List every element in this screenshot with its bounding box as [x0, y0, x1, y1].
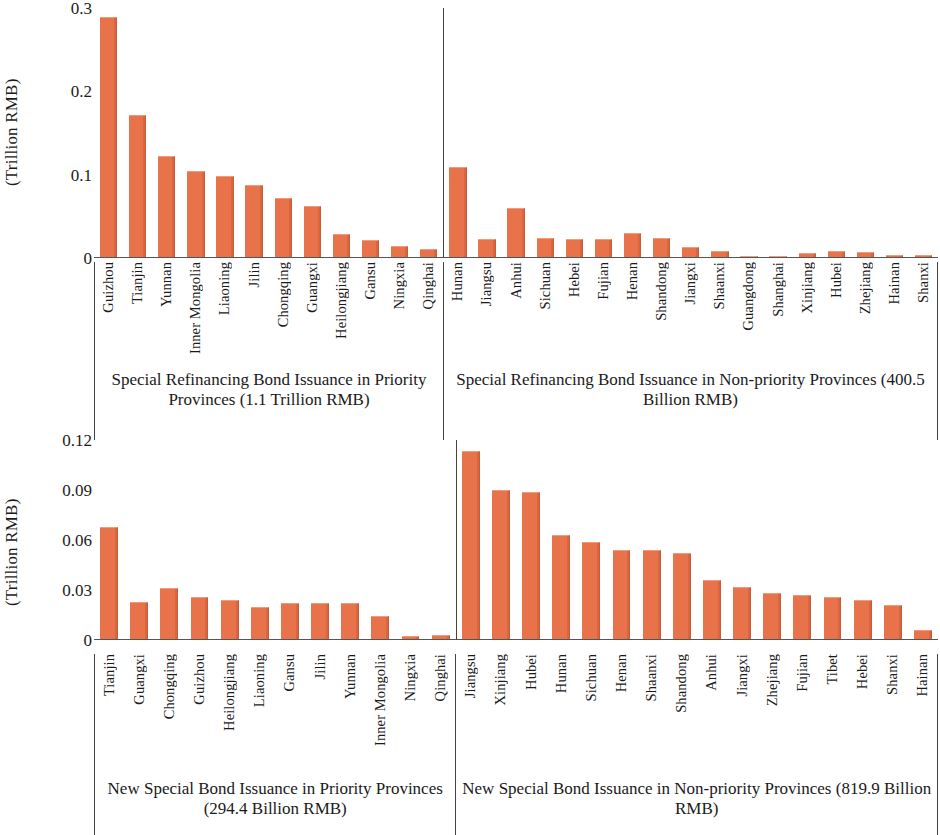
y-tick-label: 0.12	[62, 432, 92, 449]
y-axis-label-bottom: (Trillion RMB)	[2, 452, 22, 652]
bar	[763, 593, 781, 639]
bar	[537, 238, 554, 257]
bar-cell	[365, 440, 395, 639]
bar-cell	[606, 440, 636, 639]
bar	[245, 185, 262, 257]
bar-cell	[637, 440, 667, 639]
bar-cell	[705, 8, 734, 257]
y-axis-label-top: (Trillion RMB)	[2, 12, 22, 252]
bar-cell	[215, 440, 245, 639]
bar-cell	[414, 8, 443, 257]
caption-bottom-right: New Special Bond Issuance in Non-priorit…	[456, 779, 937, 827]
bar-cell	[124, 440, 154, 639]
bar-cell	[647, 8, 676, 257]
caption-cell-bottom-left: New Special Bond Issuance in Priority Pr…	[94, 654, 455, 835]
bar-cell	[793, 8, 822, 257]
bar	[129, 115, 146, 257]
bar-cell	[878, 440, 908, 639]
top-chart-panel: (Trillion RMB) 0.30.20.10 GuizhouTianjin…	[0, 0, 940, 440]
caption-bottom-left: New Special Bond Issuance in Priority Pr…	[95, 779, 455, 827]
bottom-plot-area: 0.120.090.060.030	[58, 440, 938, 640]
bar-cell	[298, 8, 327, 257]
bar	[624, 233, 641, 257]
bar-cell	[443, 8, 472, 257]
bar	[275, 198, 292, 257]
y-axis-ticks-bottom: 0.120.090.060.030	[58, 440, 92, 640]
bar	[341, 603, 359, 639]
bar-cell	[426, 440, 456, 639]
bar-cell	[395, 440, 425, 639]
bar	[100, 527, 118, 639]
bar	[566, 239, 583, 257]
bar	[371, 616, 389, 639]
top-axis-area	[94, 8, 938, 258]
bar-cell	[152, 8, 181, 257]
bar	[304, 206, 321, 257]
bar-cell	[305, 440, 335, 639]
bar-cell	[697, 440, 727, 639]
panel-divider	[443, 8, 444, 258]
y-tick-label: 0.3	[71, 0, 92, 17]
bar	[362, 240, 379, 257]
caption-cell-bottom-right: New Special Bond Issuance in Non-priorit…	[455, 654, 938, 835]
bar-cell	[154, 440, 184, 639]
y-tick-label: 0.09	[62, 482, 92, 499]
y-tick-label: 0.1	[71, 166, 92, 183]
chart-page: (Trillion RMB) 0.30.20.10 GuizhouTianjin…	[0, 0, 940, 835]
bar-cell	[676, 8, 705, 257]
bar-cell	[618, 8, 647, 257]
bar	[643, 550, 661, 639]
top-baseline	[94, 257, 938, 258]
caption-cell-top-left: Special Refinancing Bond Issuance in Pri…	[94, 262, 443, 440]
bar-cell	[560, 8, 589, 257]
bar-cell	[734, 8, 763, 257]
bar	[191, 597, 209, 639]
bar-cell	[589, 8, 618, 257]
bar-cell	[546, 440, 576, 639]
bar	[552, 535, 570, 639]
bar-cell	[269, 8, 298, 257]
bar-cell	[245, 440, 275, 639]
bottom-baseline	[94, 639, 938, 640]
bar	[420, 249, 437, 257]
bar-cell	[817, 440, 847, 639]
bar-cell	[880, 8, 909, 257]
bar	[130, 602, 148, 639]
bar	[522, 492, 540, 639]
bar	[824, 597, 842, 639]
bar	[311, 603, 329, 639]
bar-cell	[764, 8, 793, 257]
bar	[884, 605, 902, 639]
bottom-axis-area	[94, 440, 938, 640]
bar	[673, 553, 691, 639]
bar	[478, 239, 495, 257]
bar	[187, 171, 204, 257]
bar	[653, 238, 670, 257]
bar-cell	[181, 8, 210, 257]
top-caption-box: Special Refinancing Bond Issuance in Pri…	[94, 262, 938, 440]
bar-cell	[909, 8, 938, 257]
bar-cell	[210, 8, 239, 257]
bar	[492, 490, 510, 639]
bar-cell	[356, 8, 385, 257]
bar-cell	[502, 8, 531, 257]
bar-cell	[335, 440, 365, 639]
bottom-caption-box: New Special Bond Issuance in Priority Pr…	[94, 654, 938, 835]
y-tick-label: 0	[84, 250, 93, 267]
bar	[462, 451, 480, 639]
bar	[613, 550, 631, 639]
bar	[221, 600, 239, 639]
bar	[733, 587, 751, 639]
bar-cell	[787, 440, 817, 639]
panel-divider	[456, 440, 457, 640]
bar	[158, 156, 175, 257]
top-bars	[94, 8, 938, 257]
caption-top-right: Special Refinancing Bond Issuance in Non…	[444, 370, 937, 418]
bar	[216, 176, 233, 258]
bar-cell	[275, 440, 305, 639]
top-plot-area: 0.30.20.10	[58, 8, 938, 258]
bar	[281, 603, 299, 639]
bar-cell	[822, 8, 851, 257]
bar-cell	[727, 440, 757, 639]
y-axis-ticks-top: 0.30.20.10	[58, 8, 92, 258]
